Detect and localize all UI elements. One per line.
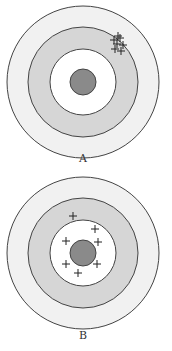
target-b	[7, 177, 159, 329]
target-b-bullseye	[70, 240, 96, 266]
target-a-label: A	[73, 152, 93, 165]
target-b-label: B	[73, 329, 93, 342]
target-a	[7, 6, 159, 158]
target-diagram	[0, 0, 172, 351]
target-a-bullseye	[70, 69, 96, 95]
